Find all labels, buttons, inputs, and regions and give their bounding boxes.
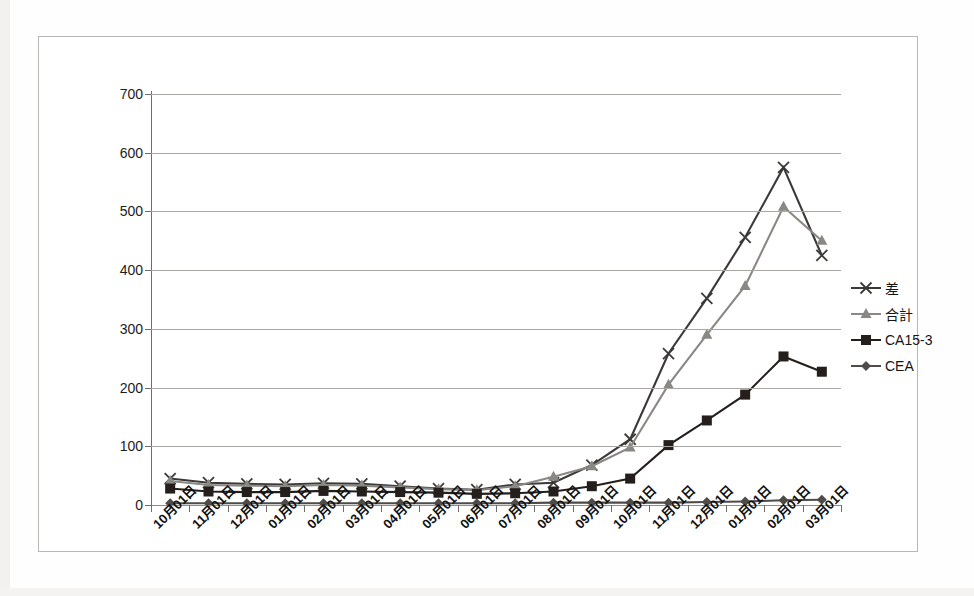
legend-item-合計[interactable]: 合計 bbox=[851, 301, 951, 327]
legend-label: 合計 bbox=[885, 304, 913, 324]
triangle-marker-icon bbox=[851, 307, 881, 321]
chart-frame: 7006005004003002001000 10月01日11月01日12月01… bbox=[38, 36, 918, 552]
diamond-marker-icon bbox=[851, 359, 881, 373]
x-marker-icon bbox=[861, 283, 872, 294]
chart-screenshot: 7006005004003002001000 10月01日11月01日12月01… bbox=[0, 0, 974, 596]
legend-label: 差 bbox=[885, 278, 899, 298]
x-marker-icon bbox=[851, 281, 881, 295]
triangle-marker-icon bbox=[861, 308, 872, 318]
legend-label: CA15-3 bbox=[885, 332, 932, 348]
legend-item-差[interactable]: 差 bbox=[851, 275, 951, 301]
page-edge-bottom bbox=[0, 588, 974, 596]
chart-legend: 差合計CA15-3CEA bbox=[851, 275, 951, 379]
square-marker-icon bbox=[851, 333, 881, 347]
legend-item-CA15-3[interactable]: CA15-3 bbox=[851, 327, 951, 353]
legend-item-CEA[interactable]: CEA bbox=[851, 353, 951, 379]
legend-label: CEA bbox=[885, 358, 914, 374]
square-marker-icon bbox=[861, 335, 871, 345]
x-axis-tick-labels: 10月01日11月01日12月01日01月01日02月01日03月01日04月0… bbox=[39, 37, 917, 551]
page-edge-left bbox=[0, 0, 10, 596]
diamond-marker-icon bbox=[861, 361, 871, 371]
